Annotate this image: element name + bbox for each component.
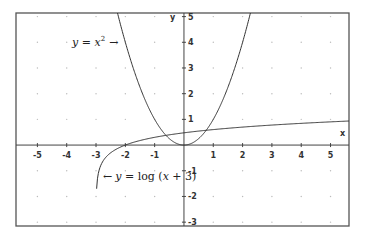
y-tick-label: 4 bbox=[188, 38, 194, 47]
x-tick-label: -4 bbox=[62, 151, 71, 160]
y-tick-label: 1 bbox=[188, 115, 194, 124]
x-axis-label: x bbox=[340, 129, 346, 138]
y-tick-label: 3 bbox=[188, 64, 194, 73]
x-tick-label: 3 bbox=[269, 151, 275, 160]
parabola-annotation: y = x2→ bbox=[71, 35, 118, 49]
x-tick-label: -5 bbox=[33, 151, 42, 160]
x-tick-label: 5 bbox=[328, 151, 334, 160]
y-axis-label: y bbox=[170, 13, 176, 22]
x-tick-label: -1 bbox=[150, 151, 159, 160]
chart: -5-4-3-2-112345 -3-2-112345 x y y = x2→ … bbox=[0, 0, 366, 238]
x-tick-label: 4 bbox=[298, 151, 304, 160]
y-tick-label: -2 bbox=[188, 192, 197, 201]
x-tick-label: -2 bbox=[121, 151, 130, 160]
y-tick-label: 2 bbox=[188, 90, 194, 99]
x-tick-label: -3 bbox=[92, 151, 101, 160]
y-tick-label: 5 bbox=[188, 13, 194, 22]
x-tick-label: 2 bbox=[240, 151, 246, 160]
y-tick-label: -3 bbox=[188, 218, 197, 227]
x-tick-label: 1 bbox=[210, 151, 216, 160]
x-ticks: -5-4-3-2-112345 bbox=[33, 143, 334, 160]
log-annotation: ←y = log (x + 3) bbox=[103, 170, 196, 183]
